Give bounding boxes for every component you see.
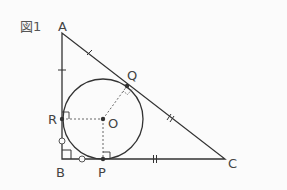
label-b: B [56,165,65,180]
label-r: R [48,112,57,127]
label-o: O [108,116,118,131]
label-a: A [58,19,67,34]
geometry-figure: 図1 A B C O P Q R [0,0,287,190]
right-angle-b [62,150,71,159]
point-q [125,84,129,88]
mark-bp [79,156,85,162]
triangle-abc [62,33,225,159]
point-o [101,117,105,121]
mark-br [59,138,65,144]
point-p [101,157,105,161]
label-c: C [228,156,237,171]
figure-caption: 図1 [20,19,41,34]
label-p: P [98,165,106,180]
label-q: Q [127,68,137,83]
point-r [60,117,64,121]
